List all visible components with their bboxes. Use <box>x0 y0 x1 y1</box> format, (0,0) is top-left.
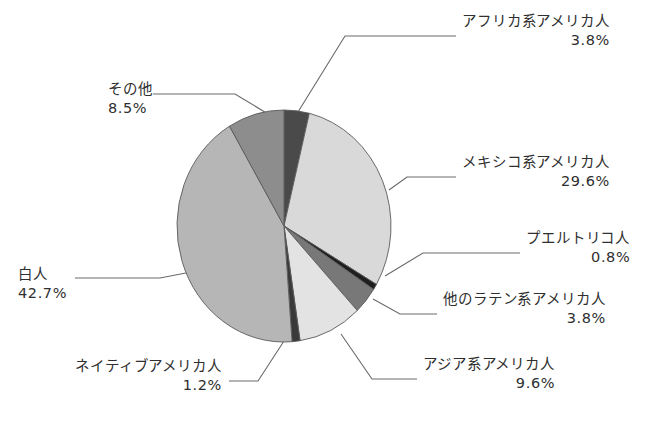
label-puerto-rican-value: 0.8% <box>526 248 630 267</box>
leader-line-african-american <box>298 36 456 112</box>
label-asian-american: アジア系アメリカ人 9.6% <box>423 355 555 394</box>
leader-line-puerto-rican <box>385 253 520 276</box>
label-asian-american-value: 9.6% <box>423 374 555 393</box>
pie-chart-figure: アフリカ系アメリカ人 3.8% メキシコ系アメリカ人 29.6% プエルトリコ人… <box>0 0 669 430</box>
label-mexican-american-value: 29.6% <box>462 172 610 191</box>
leader-line-asian-american <box>341 334 417 379</box>
leader-line-other-latino <box>373 299 437 314</box>
label-native-american-name: ネイティブアメリカ人 <box>75 357 222 376</box>
pie-slices-group <box>177 110 391 342</box>
label-mexican-american: メキシコ系アメリカ人 29.6% <box>462 153 610 192</box>
label-other-latino-value: 3.8% <box>443 309 606 328</box>
label-puerto-rican-name: プエルトリコ人 <box>526 229 630 248</box>
label-other: その他 8.5% <box>108 80 153 119</box>
label-african-american-value: 3.8% <box>462 31 610 50</box>
label-african-american: アフリカ系アメリカ人 3.8% <box>462 12 610 51</box>
leader-line-native-american <box>229 341 284 381</box>
label-white-value: 42.7% <box>18 284 67 303</box>
label-african-american-name: アフリカ系アメリカ人 <box>462 12 610 31</box>
leader-line-mexican-american <box>389 177 456 190</box>
label-native-american-value: 1.2% <box>75 376 222 395</box>
label-white: 白人 42.7% <box>18 265 67 304</box>
label-other-latino-name: 他のラテン系アメリカ人 <box>443 290 606 309</box>
label-other-name: その他 <box>108 80 153 99</box>
label-native-american: ネイティブアメリカ人 1.2% <box>75 357 222 396</box>
leader-line-white <box>75 272 191 278</box>
label-mexican-american-name: メキシコ系アメリカ人 <box>462 153 610 172</box>
label-white-name: 白人 <box>18 265 67 284</box>
label-asian-american-name: アジア系アメリカ人 <box>423 355 555 374</box>
label-other-value: 8.5% <box>108 99 153 118</box>
label-other-latino: 他のラテン系アメリカ人 3.8% <box>443 290 606 329</box>
leader-line-other <box>153 94 268 114</box>
label-puerto-rican: プエルトリコ人 0.8% <box>526 229 630 268</box>
